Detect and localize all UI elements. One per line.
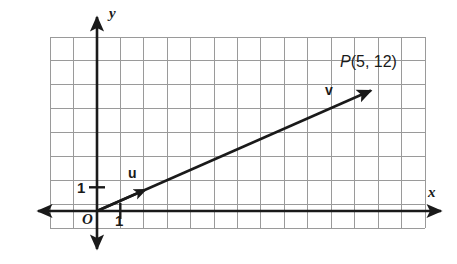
point-p-coordinates: (5, 12) bbox=[351, 53, 397, 70]
y-axis-label: y bbox=[109, 6, 116, 21]
point-p-label: P(5, 12) bbox=[340, 54, 397, 70]
vector-diagram-figure: y x O 1 1 u v P(5, 12) bbox=[0, 0, 457, 264]
origin-label: O bbox=[82, 212, 93, 227]
vector-v-label: v bbox=[325, 83, 333, 97]
x-axis-label: x bbox=[428, 185, 436, 200]
point-p-name: P bbox=[340, 53, 351, 70]
coordinate-plane-svg bbox=[0, 0, 457, 264]
vector-u bbox=[97, 192, 141, 211]
vector-u-shaft bbox=[97, 192, 141, 211]
y-tick-label-1: 1 bbox=[77, 180, 85, 195]
x-tick-label-1: 1 bbox=[115, 213, 123, 228]
vector-u-label: u bbox=[128, 166, 137, 180]
